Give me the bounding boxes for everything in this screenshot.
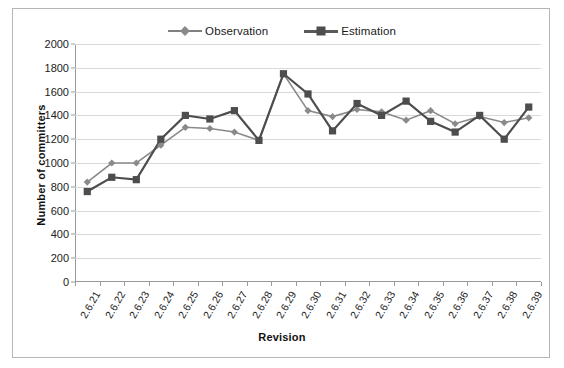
data-point-estimation [231, 107, 238, 114]
chart-container: Observation Estimation Number of committ… [12, 8, 550, 358]
diamond-marker-icon [180, 26, 190, 36]
data-point-estimation [452, 128, 459, 135]
x-tick-mark [345, 282, 346, 286]
x-tick-label: 2.6.22 [102, 289, 127, 320]
x-axis-title: Revision [13, 331, 551, 343]
x-tick-label: 2.6.38 [495, 289, 520, 320]
x-tick-mark [443, 282, 444, 286]
y-tick-label: 0 [63, 276, 69, 288]
x-tick-label: 2.6.24 [151, 289, 176, 320]
data-point-estimation [108, 174, 115, 181]
legend-line-observation [168, 30, 202, 32]
data-point-estimation [182, 112, 189, 119]
data-point-observation [206, 125, 213, 132]
x-tick-mark [394, 282, 395, 286]
x-tick-label: 2.6.33 [372, 289, 397, 320]
y-tick-label: 1600 [45, 86, 69, 98]
y-tick-label: 400 [51, 228, 69, 240]
x-tick-label: 2.6.30 [298, 289, 323, 320]
data-point-estimation [206, 115, 213, 122]
data-point-estimation [133, 176, 140, 183]
x-tick-label: 2.6.39 [519, 289, 544, 320]
data-point-estimation [255, 137, 262, 144]
data-point-estimation [378, 112, 385, 119]
data-point-estimation [84, 188, 91, 195]
x-tick-mark [541, 282, 542, 286]
y-tick-label: 2000 [45, 38, 69, 50]
x-tick-mark [320, 282, 321, 286]
x-tick-label: 2.6.34 [396, 289, 421, 320]
legend-line-estimation [304, 30, 338, 33]
data-point-observation [403, 117, 410, 124]
y-tick-label: 1000 [45, 157, 69, 169]
data-point-estimation [525, 103, 532, 110]
legend-label-observation: Observation [205, 25, 268, 37]
x-tick-mark [149, 282, 150, 286]
data-point-estimation [427, 118, 434, 125]
x-tick-mark [100, 282, 101, 286]
x-tick-mark [124, 282, 125, 286]
x-tick-mark [467, 282, 468, 286]
plot-area: 0200400600800100012001400160018002000 2.… [75, 44, 541, 282]
x-tick-label: 2.6.27 [225, 289, 250, 320]
y-tick-label: 1800 [45, 62, 69, 74]
data-point-observation [231, 128, 238, 135]
data-point-observation [452, 120, 459, 127]
y-tick-label: 200 [51, 252, 69, 264]
x-tick-mark [369, 282, 370, 286]
square-marker-icon [317, 27, 326, 36]
x-tick-label: 2.6.31 [323, 289, 348, 320]
x-tick-label: 2.6.37 [470, 289, 495, 320]
data-point-observation [501, 119, 508, 126]
data-point-estimation [501, 136, 508, 143]
data-point-estimation [403, 98, 410, 105]
data-point-observation [525, 114, 532, 121]
x-tick-label: 2.6.23 [127, 289, 152, 320]
x-tick-mark [516, 282, 517, 286]
x-tick-label: 2.6.35 [421, 289, 446, 320]
legend-item-observation: Observation [168, 25, 268, 37]
y-tick-label: 1400 [45, 109, 69, 121]
data-point-estimation [353, 100, 360, 107]
x-tick-label: 2.6.36 [446, 289, 471, 320]
x-tick-label: 2.6.28 [249, 289, 274, 320]
x-tick-label: 2.6.32 [347, 289, 372, 320]
x-tick-label: 2.6.29 [274, 289, 299, 320]
data-point-observation [329, 113, 336, 120]
data-point-estimation [329, 127, 336, 134]
data-point-estimation [304, 90, 311, 97]
series-layer [75, 44, 541, 282]
data-point-estimation [280, 70, 287, 77]
x-tick-mark [222, 282, 223, 286]
legend-label-estimation: Estimation [341, 25, 396, 37]
data-point-estimation [157, 136, 164, 143]
data-point-observation [427, 107, 434, 114]
y-tick-label: 1200 [45, 133, 69, 145]
x-tick-mark [75, 282, 76, 286]
legend-item-estimation: Estimation [304, 25, 396, 37]
data-point-estimation [476, 112, 483, 119]
x-tick-mark [198, 282, 199, 286]
x-tick-mark [271, 282, 272, 286]
x-tick-label: 2.6.21 [78, 289, 103, 320]
x-tick-mark [492, 282, 493, 286]
x-tick-mark [296, 282, 297, 286]
x-tick-label: 2.6.25 [176, 289, 201, 320]
x-tick-mark [247, 282, 248, 286]
x-tick-mark [418, 282, 419, 286]
y-tick-label: 800 [51, 181, 69, 193]
chart-legend: Observation Estimation [13, 25, 551, 37]
x-tick-mark [173, 282, 174, 286]
x-tick-label: 2.6.26 [200, 289, 225, 320]
y-tick-label: 600 [51, 205, 69, 217]
